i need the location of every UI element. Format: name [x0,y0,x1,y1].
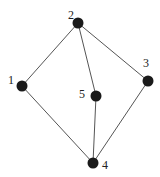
edge-1-2 [22,23,78,86]
node-4 [88,158,99,169]
edges-group [22,23,148,163]
edge-3-4 [93,81,148,163]
graph-diagram: 12345 [0,0,160,177]
edge-2-5 [78,23,96,96]
node-label-3: 3 [143,56,149,70]
edge-2-3 [78,23,148,81]
node-5 [91,91,102,102]
edge-5-4 [93,96,96,163]
node-2 [73,18,84,29]
nodes-group [17,18,154,169]
graph-svg: 12345 [0,0,160,177]
node-3 [143,76,154,87]
node-1 [17,81,28,92]
node-label-1: 1 [8,73,14,87]
node-label-4: 4 [102,158,108,172]
node-label-5: 5 [79,87,85,101]
node-label-2: 2 [68,8,74,22]
